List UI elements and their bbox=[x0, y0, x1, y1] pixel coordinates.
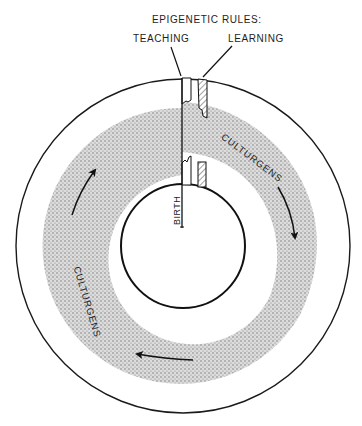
teaching-leader bbox=[171, 47, 181, 76]
teaching-channel-upper bbox=[182, 78, 191, 104]
learning-channel-lower bbox=[198, 162, 206, 187]
birth-label: BIRTH bbox=[172, 196, 182, 225]
teaching-channel-lower bbox=[182, 156, 191, 185]
teaching-label: TEACHING bbox=[133, 33, 189, 44]
learning-leader bbox=[203, 46, 232, 77]
learning-label: LEARNING bbox=[228, 33, 284, 44]
diagram-title: EPIGENETIC RULES: bbox=[152, 14, 262, 25]
inner-circle bbox=[121, 184, 245, 308]
